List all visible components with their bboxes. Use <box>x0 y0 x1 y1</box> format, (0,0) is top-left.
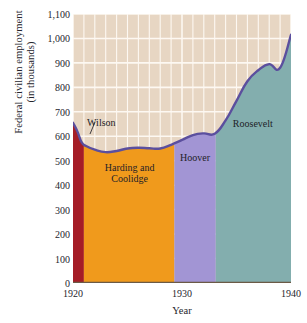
x-axis-tick-label: 1930 <box>172 288 192 299</box>
y-axis-tick-label: 0 <box>36 278 70 289</box>
y-axis-tick-label: 300 <box>36 204 70 215</box>
y-axis-tick-label: 700 <box>36 106 70 117</box>
band-label-hoover: Hoover <box>180 153 210 165</box>
x-axis-label: Year <box>73 305 291 316</box>
y-axis-tick-label: 600 <box>36 131 70 142</box>
band-label-roosevelt: Roosevelt <box>233 118 273 130</box>
plot-area: Wilson Harding and Coolidge Hoover Roose… <box>73 14 291 283</box>
band-label-harding-coolidge-line1: Harding and <box>105 161 155 172</box>
y-axis-tick-group: 1,1001,0009008007006005004003002001000 <box>32 0 70 323</box>
chart-figure: Federal civilian employment (in thousand… <box>0 0 307 323</box>
y-axis-tick-label: 900 <box>36 57 70 68</box>
y-axis-tick-label: 100 <box>36 253 70 264</box>
band-label-harding-coolidge: Harding and Coolidge <box>105 161 155 184</box>
y-axis-tick-label: 1,100 <box>36 9 70 20</box>
y-axis-tick-label: 500 <box>36 155 70 166</box>
band-label-wilson: Wilson <box>87 117 116 129</box>
y-axis-tick-label: 800 <box>36 82 70 93</box>
x-axis-tick-label: 1940 <box>281 288 301 299</box>
y-axis-label-line1: Federal civilian employment <box>13 10 24 133</box>
y-axis-tick-label: 400 <box>36 180 70 191</box>
y-axis-tick-label: 1,000 <box>36 33 70 44</box>
chart-svg <box>73 14 291 283</box>
band-label-harding-coolidge-line2: Coolidge <box>111 173 148 184</box>
x-axis-tick-label: 1920 <box>63 288 83 299</box>
y-axis-tick-label: 200 <box>36 229 70 240</box>
